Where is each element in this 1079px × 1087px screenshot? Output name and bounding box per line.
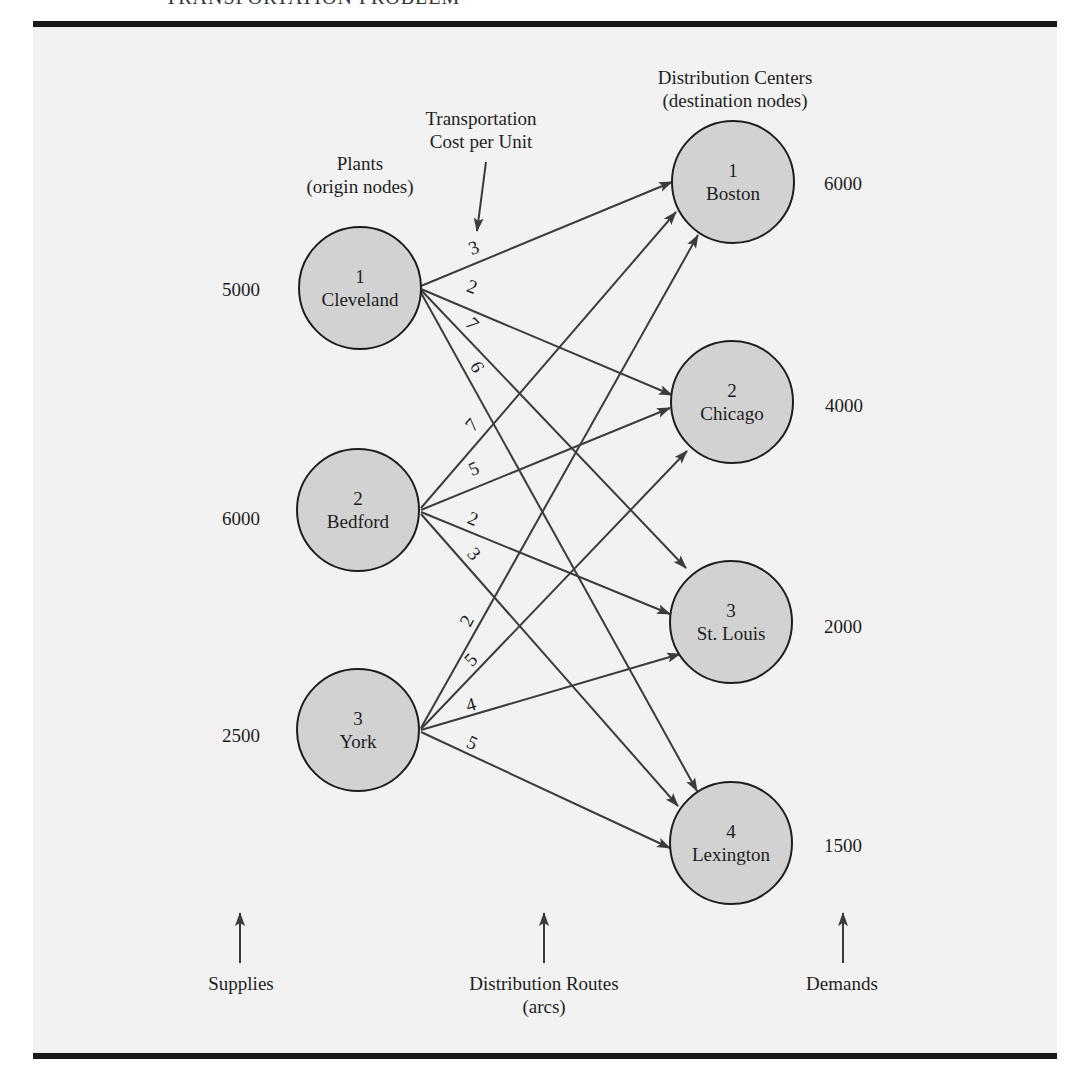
cost-title: Transportation [425,107,536,130]
node-name: Chicago [672,402,792,425]
arc-bedford-chicago [421,408,670,510]
node-name: York [298,730,418,753]
node-name: St. Louis [671,622,791,645]
arc-cleveland-lexington [420,291,697,791]
routes-subtitle: (arcs) [469,995,618,1018]
node-id: 3 [671,599,791,622]
demand-chicago: 4000 [825,395,863,417]
cost-subtitle: Cost per Unit [425,130,536,153]
centers-title: Distribution Centers [658,66,813,89]
plants-title: Plants [306,152,413,175]
node-york-label: 3 York [298,707,418,753]
supply-cleveland: 5000 [222,279,260,301]
centers-subtitle: (destination nodes) [658,89,813,112]
arc-york-lexington [421,732,670,848]
supplies-label: Supplies [208,972,273,995]
node-stlouis-label: 3 St. Louis [671,599,791,645]
node-boston-label: 1 Boston [673,159,793,205]
demands-label: Demands [806,972,878,995]
node-lexington-label: 4 Lexington [671,820,791,866]
centers-label: Distribution Centers (destination nodes) [658,66,813,112]
network-diagram [0,0,1079,1087]
demand-stlouis: 2000 [824,616,862,638]
node-name: Boston [673,182,793,205]
plants-subtitle: (origin nodes) [306,175,413,198]
node-name: Lexington [671,843,791,866]
arc-cleveland-boston [421,182,672,286]
node-id: 2 [672,379,792,402]
routes-title: Distribution Routes [469,972,618,995]
demand-lexington: 1500 [824,835,862,857]
node-id: 2 [298,487,418,510]
supply-bedford: 6000 [222,508,260,530]
cost-pointer-arrow [477,162,486,231]
routes-label: Distribution Routes (arcs) [469,972,618,1018]
demand-boston: 6000 [824,173,862,195]
node-bedford-label: 2 Bedford [298,487,418,533]
node-name: Bedford [298,510,418,533]
cost-label: Transportation Cost per Unit [425,107,536,153]
node-id: 3 [298,707,418,730]
node-id: 4 [671,820,791,843]
node-id: 1 [300,265,420,288]
supply-york: 2500 [222,725,260,747]
plants-label: Plants (origin nodes) [306,152,413,198]
node-id: 1 [673,159,793,182]
node-chicago-label: 2 Chicago [672,379,792,425]
node-name: Cleveland [300,288,420,311]
arc-cleveland-chicago [421,289,672,395]
arc-cleveland-stlouis [421,290,686,568]
node-cleveland-label: 1 Cleveland [300,265,420,311]
